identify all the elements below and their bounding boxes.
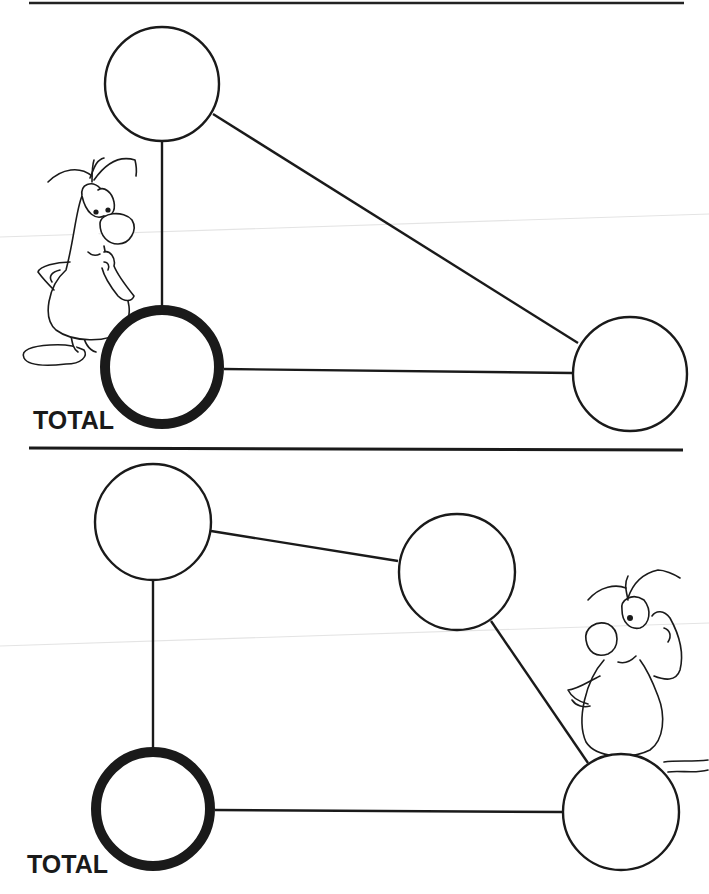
puzzle-top-edges bbox=[162, 114, 578, 373]
puzzle-bottom-edges bbox=[153, 531, 588, 812]
node-input-top-left[interactable] bbox=[95, 464, 211, 580]
total-label-bottom: TOTAL bbox=[27, 852, 108, 877]
mascot-puzzled-icon bbox=[568, 570, 708, 772]
edge-total-to-right bbox=[224, 369, 572, 373]
worksheet-canvas bbox=[0, 0, 709, 894]
node-total-top[interactable] bbox=[105, 310, 219, 424]
node-input-right[interactable] bbox=[573, 317, 687, 431]
edge-topleft-to-middle bbox=[211, 531, 398, 561]
total-label-top: TOTAL bbox=[33, 408, 114, 433]
node-input-middle-right[interactable] bbox=[399, 514, 515, 630]
node-input-top[interactable] bbox=[105, 27, 219, 141]
node-input-bottom-right[interactable] bbox=[563, 754, 679, 870]
section-divider bbox=[29, 448, 683, 450]
node-total-bottom[interactable] bbox=[96, 752, 210, 866]
edge-middle-to-bottomright bbox=[491, 621, 588, 763]
edge-total-to-bottomright bbox=[215, 810, 562, 812]
